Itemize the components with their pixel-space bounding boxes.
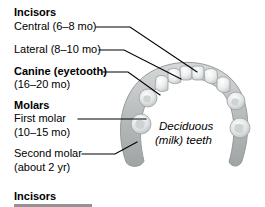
molars-heading: Molars xyxy=(14,99,49,112)
second-molar-age-label: (about 2 yr) xyxy=(14,161,70,174)
canine-age-label: (16–20 mo) xyxy=(14,78,70,91)
central-incisor-label: Central (6–8 mo) xyxy=(14,20,97,33)
deciduous-teeth-diagram: Incisors Central (6–8 mo) Lateral (8–10 … xyxy=(0,0,265,207)
caption-line-2: (milk) teeth xyxy=(155,133,212,147)
incisors-heading: Incisors xyxy=(14,6,56,19)
incisors-heading-repeat: Incisors xyxy=(14,190,56,203)
clipped-text-row xyxy=(14,204,92,207)
first-molar-label: First molar xyxy=(14,112,66,125)
first-molar-age-label: (10–15 mo) xyxy=(14,126,70,139)
caption-line-1: Deciduous xyxy=(159,119,213,133)
second-molar-label: Second molar xyxy=(14,147,82,160)
canine-label: Canine (eyetooth) xyxy=(14,65,107,78)
lateral-incisor-label: Lateral (8–10 mo) xyxy=(14,43,101,56)
